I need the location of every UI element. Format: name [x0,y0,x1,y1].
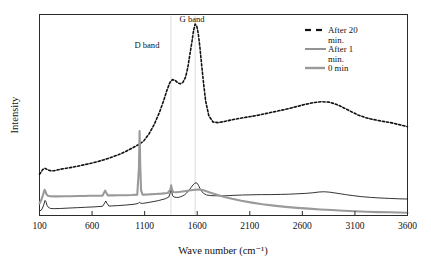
annotation-d-band: D band [134,40,160,50]
annotation-g-band: G band [180,14,206,24]
legend-label-1: After 1 [328,44,353,54]
x-tick-label-2: 1100 [135,221,154,231]
legend-label-0: After 20 [328,25,358,35]
x-tick-label-6: 3100 [345,221,364,231]
raman-spectra-figure: 100600110016002100260031003600 D band G … [0,0,431,261]
x-tick-label-0: 100 [32,221,47,231]
x-tick-label-4: 2100 [240,221,259,231]
x-tick-label-1: 600 [85,221,100,231]
x-tick-label-7: 3600 [398,221,417,231]
legend-label-2: 0 min [328,63,349,73]
x-axis-title: Wave number (cm⁻¹) [178,245,268,257]
y-axis-title: Intensity [9,96,20,133]
chart-canvas: 100600110016002100260031003600 D band G … [0,0,431,261]
x-tick-label-5: 2600 [293,221,312,231]
x-tick-label-3: 1600 [188,221,207,231]
